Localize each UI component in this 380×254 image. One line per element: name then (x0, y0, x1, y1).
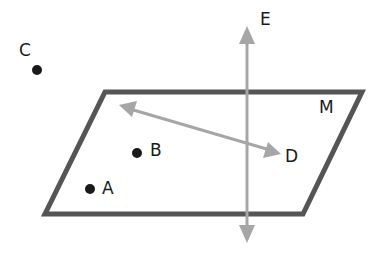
line-bd (119, 101, 281, 158)
line-e (239, 26, 255, 243)
point-a (85, 184, 95, 194)
point-c (32, 65, 42, 75)
geometry-diagram (0, 0, 380, 254)
label-d: D (285, 148, 298, 165)
arrowhead-left-icon (119, 101, 137, 117)
label-b: B (150, 142, 162, 159)
arrowhead-up-icon (239, 26, 255, 44)
arrowhead-right-icon (263, 142, 281, 158)
label-a: A (102, 180, 114, 197)
plane-m (45, 92, 362, 214)
label-e: E (260, 11, 271, 28)
arrowhead-down-icon (239, 225, 255, 243)
label-c: C (19, 42, 31, 59)
label-m: M (319, 99, 334, 116)
point-b (132, 148, 142, 158)
